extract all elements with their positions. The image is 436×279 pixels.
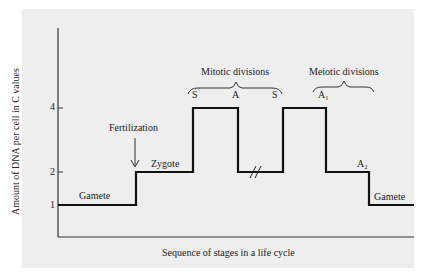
x-axis-label: Sequence of stages in a life cycle bbox=[162, 247, 295, 258]
label-mitotic-divisions: Mitotic divisions bbox=[201, 66, 269, 77]
label-meiotic-divisions: Meiotic divisions bbox=[309, 66, 379, 77]
label-a1: A₁ bbox=[318, 89, 329, 100]
dna-content-chart bbox=[0, 0, 436, 279]
y-tick-label-4: 4 bbox=[50, 101, 55, 112]
label-fertilization: Fertilization bbox=[109, 122, 158, 133]
label-a2: A₂ bbox=[357, 158, 368, 169]
label-gamete-right: Gamete bbox=[374, 191, 405, 202]
label-gamete-left: Gamete bbox=[79, 190, 110, 201]
label-s1: S bbox=[192, 89, 198, 100]
label-zygote: Zygote bbox=[151, 158, 179, 169]
y-tick-label-1: 1 bbox=[50, 199, 55, 210]
y-axis-label: Amount of DNA per cell in C values bbox=[10, 68, 21, 215]
label-a: A bbox=[232, 89, 239, 100]
label-s2: S bbox=[272, 89, 278, 100]
y-tick-label-2: 2 bbox=[50, 166, 55, 177]
